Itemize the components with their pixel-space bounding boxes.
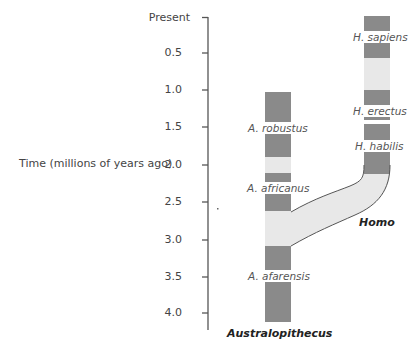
species-label-h-habilis: H. habilis <box>354 140 405 152</box>
genus-label-australopithecus: Australopithecus <box>227 328 332 340</box>
species-label-a-afarensis: A. afarensis <box>247 270 311 282</box>
species-label-a-robustus: A. robustus <box>247 122 309 134</box>
axis-title: Time (millions of years ago) <box>19 158 172 170</box>
tick-label-3-0: 3.0 <box>122 234 182 246</box>
tick-label-1-0: 1.0 <box>122 84 182 96</box>
species-label-h-sapiens: H. sapiens <box>352 31 409 43</box>
species-label-h-erectus: H. erectus <box>352 105 408 117</box>
stray-dot <box>217 208 219 210</box>
tick-label-4-0: 4.0 <box>122 307 182 319</box>
tick-label-3-5: 3.5 <box>122 271 182 283</box>
hominin-timeline-diagram: Present 0.5 1.0 1.5 2.0 2.5 3.0 3.5 4.0 … <box>0 0 414 353</box>
tick-label-2-5: 2.5 <box>122 196 182 208</box>
diagram-graphics <box>0 0 414 353</box>
tick-label-present: Present <box>130 12 190 24</box>
tick-label-1-5: 1.5 <box>122 121 182 133</box>
genus-label-homo: Homo <box>359 217 395 229</box>
axis-ticks <box>202 18 208 314</box>
tick-label-0-5: 0.5 <box>122 47 182 59</box>
species-label-a-africanus: A. africanus <box>246 182 310 194</box>
